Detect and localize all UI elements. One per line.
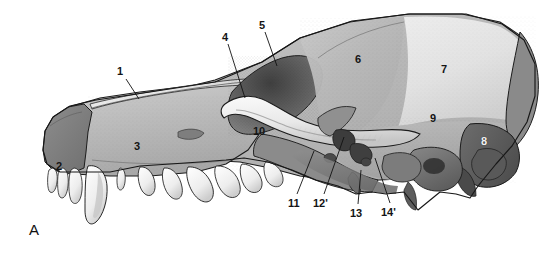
tooth-molar-2: [240, 164, 262, 193]
tooth-incisor-3: [69, 168, 82, 204]
label-lacrimal-region: 4: [222, 32, 228, 43]
tooth-premolar-4-carnassial: [187, 167, 214, 202]
external-acoustic-meatus: [423, 158, 445, 174]
label-optic-canal: 12': [313, 198, 328, 209]
skull-body: [43, 14, 538, 224]
label-occipital-bone: 8: [481, 136, 487, 147]
label-nasal-bone-dorsal-margin: 1: [117, 66, 123, 77]
label-foramen-ovale-region: 14': [381, 207, 396, 218]
skull-lateral-illustration: [0, 0, 560, 254]
mandibular-fossa: [382, 153, 421, 182]
panel-letter-a: A: [29, 222, 39, 237]
label-frontal-bone-orbital-part: 5: [259, 20, 265, 31]
tooth-premolar-1: [117, 168, 125, 190]
label-incisive-bone: 2: [56, 161, 62, 172]
label-frontal-bone: 6: [355, 54, 361, 65]
label-parietal-bone: 7: [441, 64, 447, 75]
occipital-condyle: [472, 148, 507, 180]
label-temporal-bone-squamous-part: 9: [430, 113, 436, 124]
label-pterygoid-process: 13: [350, 208, 362, 219]
label-zygomatic-arch: 10: [253, 126, 265, 137]
figure-panel-a: 123456789101112'1314' A: [0, 0, 560, 254]
label-maxilla: 3: [134, 141, 140, 152]
label-orbital-floor: 11: [288, 198, 300, 209]
foramen-ovale: [361, 158, 371, 166]
incisive-bone: [43, 104, 92, 174]
